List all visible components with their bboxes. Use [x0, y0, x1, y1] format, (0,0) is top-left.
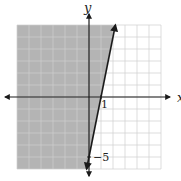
y-axis-label: y [83, 0, 92, 15]
inequality-graph: y x 1 −5 [0, 0, 181, 181]
y-tick-label-minus5: −5 [93, 151, 109, 164]
x-axis-label: x [177, 90, 181, 105]
x-tick-label-1: 1 [101, 98, 108, 111]
